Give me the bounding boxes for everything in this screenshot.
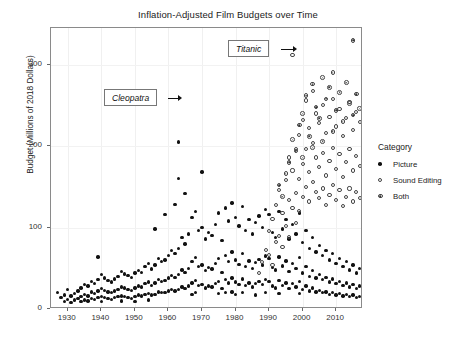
data-point [254,221,257,224]
data-point [163,258,166,261]
data-point [241,291,244,294]
data-point [284,224,288,228]
data-point [194,210,197,213]
data-point [351,168,355,172]
data-point [327,159,331,163]
data-point [93,282,96,285]
data-point [200,263,203,266]
data-point [294,191,298,195]
y-tick-mark [47,64,50,65]
data-point [264,248,268,252]
data-point [334,108,339,113]
data-point [287,287,290,290]
x-tick-mark [201,308,202,311]
data-point [204,237,207,240]
data-point [194,256,197,259]
y-axis-label: Budget (Millions of 2018 Dollars) [26,5,35,225]
data-point [234,216,237,219]
data-point [290,137,295,142]
data-point [337,152,341,156]
data-point [321,151,325,155]
data-point [348,268,351,271]
data-point [344,80,349,85]
gridline-horizontal [51,228,361,229]
legend-label-picture: Picture [393,160,417,169]
legend-item-both[interactable]: Both [378,190,454,202]
data-point [247,218,250,221]
data-point [147,298,150,301]
data-point [314,155,318,159]
data-point [358,196,362,200]
plot-area [50,27,362,308]
y-tick-mark [47,227,50,228]
data-point [264,291,267,294]
data-point [334,282,337,285]
data-point [247,281,250,284]
data-point [63,293,66,296]
data-point [308,247,311,250]
data-point [230,201,233,204]
legend-item-sound-editing[interactable]: Sound Editing [378,174,454,186]
data-point [298,292,301,295]
data-point [327,115,331,119]
data-point [147,280,150,283]
data-point [224,206,227,209]
data-point [334,167,338,171]
x-tick-mark [134,308,135,311]
data-point [234,293,237,296]
data-point [116,275,119,278]
data-point [173,276,176,279]
data-point [217,280,220,283]
gridline-vertical [168,28,169,307]
scatter-chart: Inflation-Adjusted Film Budgets over Tim… [0,0,456,346]
data-point [331,146,335,150]
x-tick-mark [67,308,68,311]
data-point [311,286,314,289]
data-point [69,294,72,297]
data-point [358,267,361,270]
data-point [358,295,361,298]
data-point [294,232,297,235]
data-point [270,263,274,267]
data-point [297,177,301,181]
data-point [314,276,317,279]
data-point [100,300,103,303]
data-point [163,213,166,216]
data-point [307,199,311,203]
y-tick-mark [47,308,50,309]
data-point [200,283,203,286]
data-point [173,252,176,255]
data-point [257,280,260,283]
data-point [317,121,321,125]
data-point [187,284,190,287]
data-point [277,255,280,258]
data-point [241,252,244,255]
data-point [341,134,345,138]
data-point [287,155,291,159]
data-point [230,250,233,253]
data-point [290,206,294,210]
data-point [210,285,213,288]
annotation-cleopatra-arrow-head [178,95,182,101]
data-point [287,160,292,165]
data-point [328,280,331,283]
data-point [281,264,284,267]
data-point [133,271,136,274]
data-point [314,105,319,110]
data-point [76,289,79,292]
data-point [251,267,254,270]
legend: Category Picture Sound Editing Both [378,142,454,206]
data-point [314,190,318,194]
data-point [264,208,267,211]
data-point [354,154,358,158]
data-point [297,133,301,137]
data-point [284,178,288,182]
data-point [297,123,302,128]
data-point [304,98,308,102]
data-point [167,276,170,279]
legend-item-picture[interactable]: Picture [378,158,454,170]
data-point [331,129,336,134]
data-point [294,285,297,288]
data-point [254,293,257,296]
data-point [311,236,314,239]
